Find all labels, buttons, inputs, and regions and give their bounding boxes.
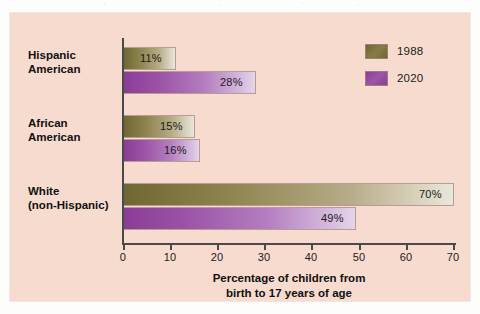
category-label-white-non-hispanic: White (non-Hispanic) — [28, 185, 116, 212]
legend-item-2020[interactable]: 2020 — [365, 70, 423, 86]
x-axis-tick — [217, 245, 219, 250]
x-tick-label-20: 20 — [211, 251, 224, 263]
bar-african-american-2020[interactable] — [124, 139, 200, 162]
category-label-african-american: African American — [28, 117, 116, 144]
category-axis-labels: Hispanic American African American White… — [28, 38, 116, 243]
legend-label-2020: 2020 — [397, 72, 423, 84]
scan-speckle — [104, 3, 106, 5]
x-axis-tick — [311, 245, 313, 250]
x-axis-tick — [264, 245, 266, 250]
scan-speckle — [218, 4, 220, 6]
x-axis-title-line2: birth to 17 years of age — [122, 286, 456, 301]
x-axis-tick — [453, 245, 455, 250]
x-tick-label-0: 0 — [120, 251, 126, 263]
scanned-page: Hispanic American African American White… — [0, 0, 480, 314]
bar-value-hispanic-american-2020: 28% — [220, 71, 243, 94]
x-tick-label-70: 70 — [447, 251, 460, 263]
x-axis-title: Percentage of children from birth to 17 … — [122, 271, 456, 300]
x-axis-tick — [170, 245, 172, 250]
x-axis-title-line1: Percentage of children from — [122, 271, 456, 286]
legend-swatch-1988-icon — [365, 44, 388, 59]
legend-item-1988[interactable]: 1988 — [365, 43, 423, 59]
x-tick-label-30: 30 — [258, 251, 271, 263]
category-label-line: African — [28, 117, 68, 129]
scan-speckle — [357, 4, 359, 6]
scan-speckle — [301, 2, 303, 4]
x-tick-label-60: 60 — [400, 251, 413, 263]
bar-value-african-american-2020: 16% — [164, 139, 187, 162]
chart-legend: 1988 2020 — [365, 43, 423, 97]
category-label-line: (non-Hispanic) — [28, 199, 109, 211]
bar-value-african-american-1988: 15% — [160, 115, 183, 138]
x-axis-tick — [406, 245, 408, 250]
x-tick-label-10: 10 — [164, 251, 177, 263]
x-axis-tick — [359, 245, 361, 250]
category-label-hispanic-american: Hispanic American — [28, 49, 116, 76]
category-label-line: Hispanic — [28, 49, 76, 61]
bar-value-white-non-hispanic-1988: 70% — [419, 183, 442, 206]
chart-panel: Hispanic American African American White… — [10, 13, 470, 301]
x-axis-tick — [123, 245, 125, 250]
x-tick-label-50: 50 — [353, 251, 366, 263]
bar-value-white-non-hispanic-2020: 49% — [321, 207, 344, 230]
category-label-line: American — [28, 131, 80, 143]
bar-white-non-hispanic-1988[interactable] — [124, 183, 454, 206]
category-label-line: White — [28, 185, 59, 197]
legend-swatch-2020-icon — [365, 71, 388, 86]
category-label-line: American — [28, 63, 80, 75]
legend-label-1988: 1988 — [397, 45, 423, 57]
bar-value-hispanic-american-1988: 11% — [140, 47, 162, 70]
x-tick-label-40: 40 — [305, 251, 318, 263]
